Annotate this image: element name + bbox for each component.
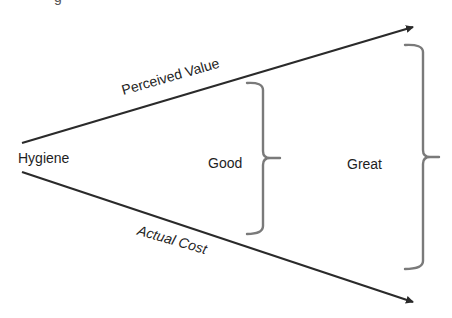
actual-cost-arrow <box>22 172 413 302</box>
good-bracket <box>247 83 280 234</box>
perceived-value-arrow <box>22 27 413 143</box>
good-label: Good <box>208 155 242 171</box>
great-label: Great <box>347 156 382 172</box>
great-bracket <box>405 45 439 269</box>
diagram-canvas: g Hygiene Perceived Value Actual Cost Go… <box>0 0 452 318</box>
hygiene-label: Hygiene <box>18 150 69 166</box>
